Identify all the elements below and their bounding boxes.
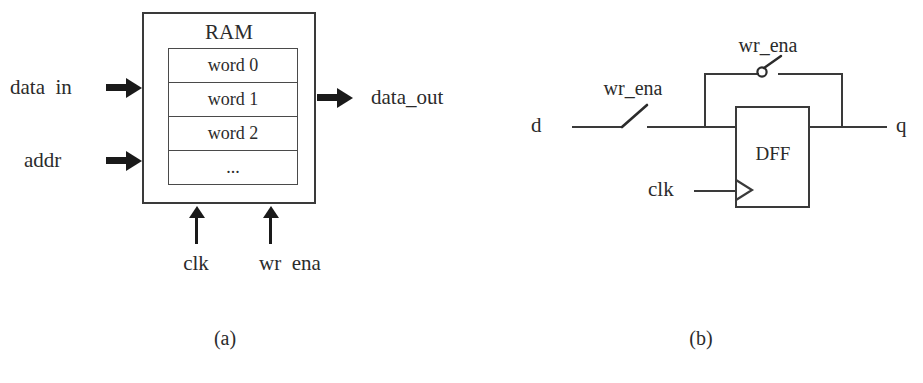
dff-d-input-label: d bbox=[531, 115, 542, 136]
dff-d-wire-right bbox=[647, 126, 736, 128]
ram-data-out-arrow bbox=[317, 94, 338, 101]
ram-clk-arrow bbox=[195, 217, 198, 244]
ram-addr-label: addr bbox=[24, 150, 61, 171]
dff-feedback-switch-label: wr_ena bbox=[739, 35, 798, 55]
dff-series-switch-blade bbox=[622, 105, 647, 127]
ram-block-title: RAM bbox=[205, 20, 253, 45]
ram-word-row: word 1 bbox=[169, 83, 297, 117]
dff-clk-wire bbox=[694, 190, 736, 192]
ram-data-in-arrow bbox=[106, 84, 127, 91]
ram-addr-arrow bbox=[106, 157, 127, 164]
ram-word-row: word 2 bbox=[169, 117, 297, 151]
dff-feedback-wire-input-vertical bbox=[704, 73, 706, 127]
dff-clk-label: clk bbox=[648, 179, 674, 200]
dff-feedback-wire-top-right bbox=[778, 73, 843, 75]
dff-d-wire-left bbox=[572, 126, 622, 128]
dff-q-output-label: q bbox=[896, 115, 907, 136]
dff-feedback-wire-top-left bbox=[704, 73, 759, 75]
panel-b-caption: (b) bbox=[689, 328, 712, 348]
dff-series-switch-label: wr_ena bbox=[604, 78, 663, 98]
dff-feedback-wire-output-vertical bbox=[841, 73, 843, 127]
ram-clk-label: clk bbox=[183, 253, 209, 274]
dff-block-label: DFF bbox=[756, 143, 791, 165]
ram-word-row: word 0 bbox=[169, 49, 297, 83]
ram-data-out-label: data_out bbox=[371, 87, 443, 108]
ram-data-in-label: data in bbox=[10, 77, 72, 98]
ram-wr-ena-label: wr ena bbox=[259, 253, 321, 274]
ram-word-row: ... bbox=[169, 151, 297, 184]
figure-root: RAM word 0 word 1 word 2 ... data in add… bbox=[0, 0, 923, 383]
ram-wr-ena-arrow bbox=[269, 217, 272, 244]
dff-q-wire bbox=[810, 126, 887, 128]
ram-word-table: word 0 word 1 word 2 ... bbox=[168, 48, 298, 185]
panel-a-caption: (a) bbox=[214, 328, 236, 348]
